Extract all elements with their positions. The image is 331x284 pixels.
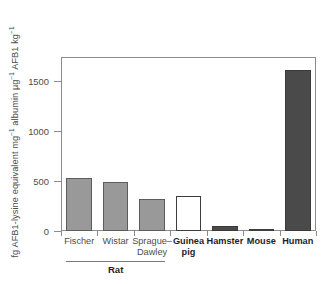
y-tick-label: 1000 [9, 126, 49, 137]
bar-wistar [103, 182, 129, 231]
y-tick-label: 0 [9, 226, 49, 237]
x-tick-label: Human [276, 236, 320, 247]
bar-hamster [212, 226, 238, 232]
y-tick-mark [54, 231, 61, 232]
bar-guinea-pig [176, 196, 202, 232]
rat-group-bracket [66, 261, 165, 262]
y-tick-label: 500 [9, 176, 49, 187]
y-tick-mark [54, 81, 61, 82]
rat-group-label: Rat [66, 264, 165, 275]
bar-mouse [249, 229, 275, 232]
bar-fischer [66, 178, 92, 231]
y-tick-mark [54, 181, 61, 182]
bar-sprague--dawley [139, 199, 165, 231]
y-tick-mark [54, 131, 61, 132]
bar-chart-figure: fg AFB1-lysine equivalent mg−1 albumin µ… [0, 0, 331, 284]
bar-human [285, 70, 311, 232]
y-tick-label: 1500 [9, 76, 49, 87]
y-axis-title: fg AFB1-lysine equivalent mg−1 albumin µ… [10, 26, 20, 257]
y-axis-title-container: fg AFB1-lysine equivalent mg−1 albumin µ… [0, 0, 30, 284]
